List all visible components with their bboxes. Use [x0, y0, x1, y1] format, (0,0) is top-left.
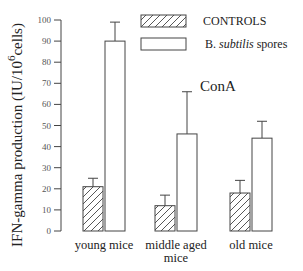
bar-rect [230, 193, 250, 231]
bar-rect [177, 134, 197, 231]
bar-chart: 0102030405060708090100 IFN-gamma product… [0, 0, 303, 271]
y-tick-label: 100 [38, 15, 52, 25]
bar-controls-2 [230, 180, 250, 231]
y-tick-label: 70 [42, 78, 52, 88]
legend-swatch-controls [141, 15, 186, 27]
bar-spores-1 [177, 92, 197, 231]
y-tick-label: 60 [42, 99, 52, 109]
y-tick-label: 0 [47, 226, 52, 236]
bar-spores-2 [252, 121, 272, 231]
bar-controls-1 [155, 195, 175, 231]
y-axis: 0102030405060708090100 [38, 15, 62, 236]
y-tick-label: 80 [42, 57, 52, 67]
bar-controls-0 [83, 178, 103, 231]
category-label: young mice [75, 238, 134, 252]
y-tick-label: 30 [42, 163, 52, 173]
y-tick-label: 50 [42, 121, 52, 131]
bar-rect [83, 187, 103, 231]
category-labels: young micemiddle agedmiceold mice [75, 238, 273, 265]
legend: CONTROLS B. subtilis spores [141, 14, 288, 51]
y-tick-label: 40 [42, 142, 52, 152]
bars-group [83, 22, 272, 231]
category-label: old mice [229, 238, 273, 252]
y-axis-title: IFN-gamma production (IU/106cells) [5, 23, 26, 247]
bar-rect [252, 138, 272, 231]
legend-label-controls: CONTROLS [203, 14, 266, 28]
category-label: mice [164, 251, 189, 265]
bar-rect [155, 206, 175, 231]
stimulus-annotation: ConA [200, 78, 236, 94]
y-tick-label: 10 [42, 205, 52, 215]
category-label: middle aged [145, 238, 207, 252]
y-tick-label: 90 [42, 36, 52, 46]
y-tick-label: 20 [42, 184, 52, 194]
bar-spores-0 [105, 22, 125, 231]
legend-label-spores: B. subtilis spores [205, 37, 288, 51]
bar-rect [105, 41, 125, 231]
legend-swatch-spores [141, 38, 186, 50]
